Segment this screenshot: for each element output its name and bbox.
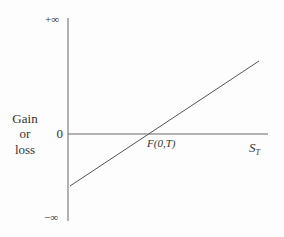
payoff-diagram: +∞ 0 −∞ Gain or loss F(0,T) ST: [0, 0, 284, 237]
payoff-chart-svg: +∞ 0 −∞ Gain or loss F(0,T) ST: [0, 0, 284, 237]
y-axis-label-loss: loss: [15, 142, 35, 157]
x-axis-label: ST: [249, 140, 261, 157]
payoff-line: [70, 61, 259, 186]
x-axis-label-subscript: T: [256, 148, 261, 157]
y-axis-label-or: or: [20, 126, 32, 141]
y-tick-plus-infinity: +∞: [45, 13, 59, 25]
y-tick-minus-infinity: −∞: [44, 211, 58, 223]
y-axis-label-gain: Gain: [12, 111, 38, 126]
forward-price-label: F(0,T): [146, 137, 176, 150]
y-tick-zero: 0: [57, 126, 64, 141]
